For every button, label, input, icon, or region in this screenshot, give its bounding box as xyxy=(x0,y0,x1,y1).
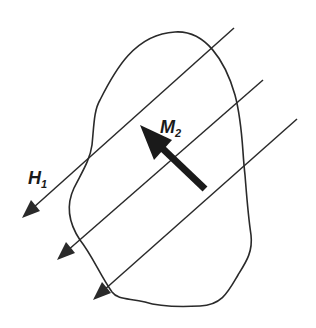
field-line-2 xyxy=(59,80,263,258)
field-line-3 xyxy=(95,119,297,298)
arrowhead-icon xyxy=(57,242,75,260)
moment-label: M2 xyxy=(160,117,181,139)
arrowhead-icon xyxy=(93,282,111,300)
field-lines xyxy=(22,28,297,300)
magnetic-field-diagram: M2 H1 xyxy=(0,0,316,328)
field-label: H1 xyxy=(28,168,47,190)
arrowhead-icon xyxy=(22,200,40,218)
